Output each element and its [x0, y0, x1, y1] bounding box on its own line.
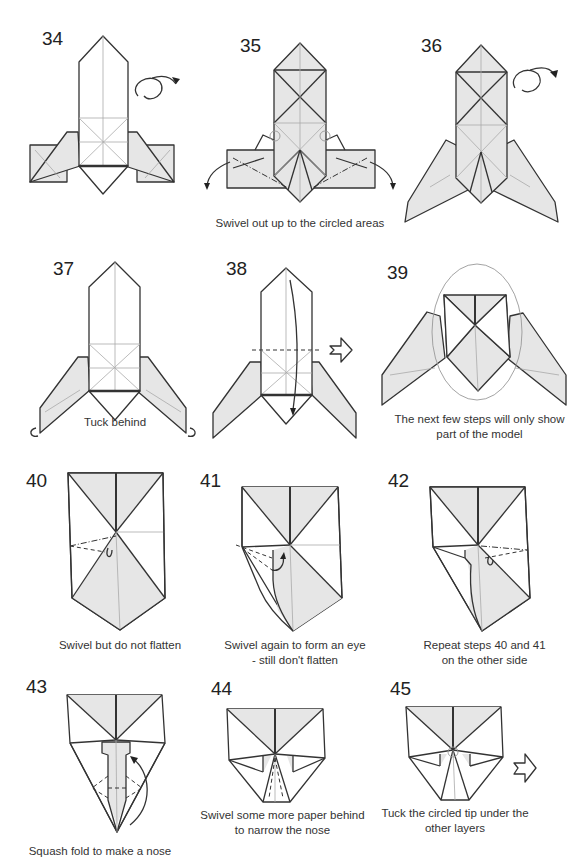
step-43: 43 Squash fold to make a nose	[0, 670, 200, 854]
step-caption-line2: on the other side	[385, 653, 584, 668]
step-35-diagram	[200, 0, 400, 240]
step-37-diagram	[0, 240, 200, 440]
step-36: 36	[390, 0, 584, 240]
step-41: 41 Swivel again to form an eye - still d…	[200, 470, 390, 670]
step-caption: Squash fold to make a nose	[20, 844, 180, 859]
step-34: 34	[0, 0, 200, 230]
swivel-arrow-icon	[204, 183, 210, 190]
next-step-arrow-icon	[514, 754, 536, 782]
step-40-diagram	[0, 470, 200, 650]
step-44: 44 Swivel some more paper behind to narr…	[195, 670, 390, 854]
step-38-diagram	[200, 240, 380, 440]
step-caption-line1: Swivel again to form an eye	[200, 638, 390, 653]
step-40: 40 Swivel but do not flatten	[0, 470, 200, 650]
step-45: 45 Tuck the circled tip under the other …	[380, 670, 584, 854]
step-caption-line2: - still don't flatten	[200, 653, 390, 668]
tuck-arrow-icon	[31, 428, 38, 436]
step-42: 42 Repeat steps 40 and 41 on the other s…	[385, 470, 584, 670]
step-43-diagram	[0, 670, 200, 854]
step-caption: Tuck behind	[60, 415, 170, 430]
step-caption: Swivel but do not flatten	[40, 638, 200, 653]
step-caption-line2: other layers	[380, 821, 530, 836]
step-caption-line1: Swivel some more paper behind	[195, 808, 370, 823]
step-caption-line1: Tuck the circled tip under the	[380, 806, 530, 821]
step-39: 39 The next few steps will only show par…	[375, 240, 584, 440]
step-35: 35 Swivel out up to the circled areas	[200, 0, 400, 240]
step-36-diagram	[390, 0, 584, 240]
step-34-diagram	[0, 0, 200, 230]
next-step-arrow-icon	[330, 338, 352, 362]
turn-over-icon	[135, 78, 162, 99]
step-37: 37 Tuck behind	[0, 240, 200, 440]
step-caption-line1: The next few steps will only show	[375, 412, 584, 427]
step-caption-line1: Repeat steps 40 and 41	[385, 638, 584, 653]
step-39-diagram	[375, 240, 584, 440]
step-38: 38	[200, 240, 380, 440]
turn-over-icon	[513, 70, 540, 92]
step-caption-line2: part of the model	[375, 427, 584, 442]
step-caption-line2: to narrow the nose	[195, 823, 370, 838]
step-caption: Swivel out up to the circled areas	[200, 216, 400, 231]
